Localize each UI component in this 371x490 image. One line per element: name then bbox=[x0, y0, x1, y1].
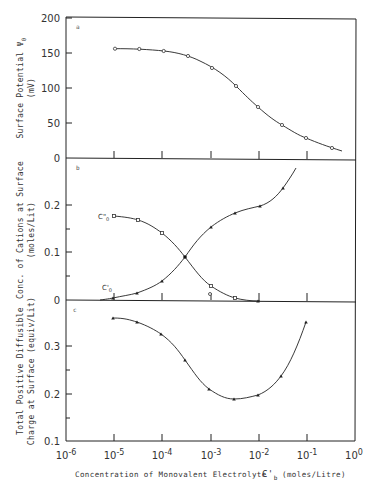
svg-text:(mV): (mV) bbox=[27, 78, 36, 98]
y-axis-label-a: Surface Potential Ψ0 (mV) bbox=[16, 37, 36, 138]
svg-text:Concentration of Monovalent El: Concentration of Monovalent Electrolyte bbox=[75, 470, 267, 479]
svg-text:10-2: 10-2 bbox=[249, 448, 270, 461]
svg-text:100: 100 bbox=[345, 448, 363, 461]
plot-frame bbox=[66, 17, 356, 441]
svg-text:Surface Potential Ψ0: Surface Potential Ψ0 bbox=[16, 37, 27, 138]
svg-text:10-4: 10-4 bbox=[152, 448, 173, 461]
svg-text:Total Positive Diffusible: Total Positive Diffusible bbox=[16, 307, 25, 435]
y-tick-labels: 200 150 100 50 0 0.2 0.1 0 0.3 0.2 0.1 bbox=[41, 13, 60, 447]
series-surface-potential bbox=[113, 47, 342, 151]
svg-text:0.2: 0.2 bbox=[44, 389, 60, 400]
y-axis-label-c: Total Positive Diffusible Charge at Surf… bbox=[16, 297, 36, 445]
x-axis-label: Concentration of Monovalent Electrolyte … bbox=[75, 469, 346, 481]
y-ticks bbox=[66, 18, 72, 418]
x-tick-labels: 10-6 10-5 10-4 10-3 10-2 10-1 100 bbox=[56, 448, 363, 461]
svg-text:(moles/Litre): (moles/Litre) bbox=[282, 470, 346, 479]
label-c-double-prime: C"0 bbox=[98, 213, 109, 222]
svg-text:200: 200 bbox=[41, 13, 60, 24]
svg-text:150: 150 bbox=[41, 48, 60, 59]
svg-text:0.2: 0.2 bbox=[44, 200, 60, 211]
series-labels-b: C"0 C'0 bbox=[98, 213, 112, 293]
chart-figure: 200 150 100 50 0 0.2 0.1 0 0.3 0.2 0.1 1… bbox=[0, 0, 371, 490]
series-total-charge bbox=[111, 317, 308, 401]
svg-text:Charge at Surface (equiv/Lit): Charge at Surface (equiv/Lit) bbox=[27, 297, 36, 445]
series-c-prime bbox=[100, 168, 296, 303]
svg-text:0: 0 bbox=[54, 295, 60, 306]
svg-text:0: 0 bbox=[54, 153, 60, 164]
svg-text:10-6: 10-6 bbox=[56, 448, 77, 461]
svg-text:(moles/Lit): (moles/Lit) bbox=[27, 202, 36, 258]
svg-text:10-3: 10-3 bbox=[201, 448, 222, 461]
label-c-prime: C'0 bbox=[102, 284, 112, 293]
svg-text:Conc. of Cations at Surface: Conc. of Cations at Surface bbox=[16, 161, 25, 299]
panel-letter-a: a bbox=[76, 23, 80, 30]
svg-text:100: 100 bbox=[41, 83, 60, 94]
svg-text:C'b: C'b bbox=[262, 469, 278, 481]
svg-text:50: 50 bbox=[47, 118, 60, 129]
svg-text:10-1: 10-1 bbox=[297, 448, 318, 461]
svg-text:0.1: 0.1 bbox=[44, 247, 60, 258]
y-axis-label-b: Conc. of Cations at Surface (moles/Lit) bbox=[16, 161, 36, 299]
svg-text:0.1: 0.1 bbox=[44, 436, 60, 447]
svg-text:10-5: 10-5 bbox=[104, 448, 125, 461]
panel-letter-c: c bbox=[73, 306, 77, 313]
panel-letter-b: b bbox=[76, 164, 80, 171]
svg-text:0.3: 0.3 bbox=[44, 341, 60, 352]
